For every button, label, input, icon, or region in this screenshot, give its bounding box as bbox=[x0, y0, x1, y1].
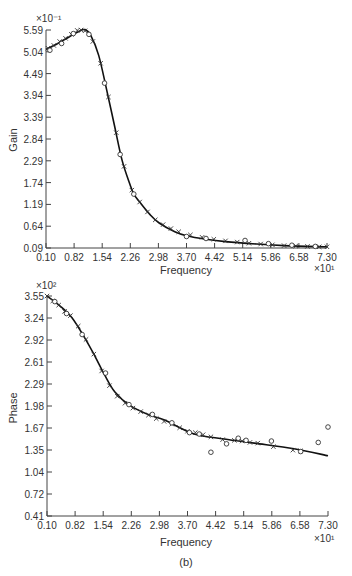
y-tick-label: 2.29 bbox=[25, 379, 45, 390]
circle-marker bbox=[187, 430, 192, 435]
figure-caption: (b) bbox=[179, 556, 192, 568]
y-tick-label: 1.98 bbox=[25, 401, 45, 412]
x-tick-label: 6.58 bbox=[289, 252, 309, 263]
circle-marker bbox=[316, 440, 321, 445]
x-tick-label: 7.30 bbox=[318, 520, 338, 531]
y-tick-label: 5.04 bbox=[24, 47, 44, 58]
circle-marker bbox=[290, 243, 295, 248]
x-tick-label: 2.98 bbox=[149, 252, 169, 263]
circle-marker bbox=[132, 192, 137, 197]
x-tick-label: 5.86 bbox=[262, 520, 282, 531]
circle-marker bbox=[71, 31, 76, 36]
y-tick-label: 4.49 bbox=[24, 69, 44, 80]
x-tick-label: 2.26 bbox=[122, 520, 142, 531]
y-tick-label: 5.59 bbox=[24, 25, 44, 36]
circle-marker bbox=[266, 241, 271, 246]
y-tick-label: 1.74 bbox=[24, 178, 44, 189]
y-tick-label: 1.67 bbox=[25, 423, 45, 434]
circle-marker bbox=[204, 236, 209, 241]
cross-marker bbox=[137, 200, 141, 204]
figure: ×10⁻¹ Gain Frequency ×10¹ 0.100.821.542.… bbox=[0, 0, 352, 576]
phase-y-multiplier: ×10² bbox=[36, 280, 57, 291]
circle-marker bbox=[64, 311, 69, 316]
y-tick-label: 0.41 bbox=[25, 511, 45, 522]
circle-marker bbox=[298, 449, 303, 454]
y-tick-label: 3.39 bbox=[24, 112, 44, 123]
x-tick-label: 5.86 bbox=[261, 252, 281, 263]
circle-marker bbox=[48, 48, 53, 53]
circle-marker bbox=[184, 234, 189, 239]
y-tick-label: 0.72 bbox=[25, 489, 45, 500]
y-tick-label: 2.61 bbox=[25, 357, 45, 368]
phase-axes: 0.100.821.542.262.983.704.425.145.866.58… bbox=[25, 291, 339, 531]
gain-axes: 0.100.821.542.262.983.704.425.145.866.58… bbox=[24, 25, 338, 263]
circle-marker bbox=[269, 439, 274, 444]
y-tick-label: 2.29 bbox=[24, 156, 44, 167]
circle-marker bbox=[53, 299, 58, 304]
x-tick-label: 3.70 bbox=[178, 520, 198, 531]
x-tick-label: 4.42 bbox=[206, 520, 226, 531]
circle-marker bbox=[243, 238, 248, 243]
y-tick-label: 0.09 bbox=[24, 243, 44, 254]
y-tick-label: 3.24 bbox=[25, 313, 45, 324]
phase-y-axis-label: Phase bbox=[7, 392, 19, 423]
x-tick-label: 1.54 bbox=[92, 252, 112, 263]
cross-marker bbox=[153, 218, 157, 222]
circle-marker bbox=[59, 41, 64, 46]
gain-x-axis-label: Frequency bbox=[160, 264, 212, 276]
cross-marker bbox=[145, 210, 149, 214]
gain-x-multiplier: ×10¹ bbox=[314, 263, 335, 274]
y-tick-label: 2.84 bbox=[24, 134, 44, 145]
phase-chart: ×10² Phase Frequency ×10¹ 0.100.821.542.… bbox=[7, 280, 338, 548]
circle-marker bbox=[236, 436, 241, 441]
x-tick-label: 0.82 bbox=[65, 520, 85, 531]
x-tick-label: 4.42 bbox=[205, 252, 225, 263]
x-tick-label: 0.82 bbox=[64, 252, 84, 263]
circle-marker bbox=[244, 438, 249, 443]
circle-marker bbox=[313, 244, 318, 249]
x-tick-label: 5.14 bbox=[233, 252, 253, 263]
x-tick-label: 5.14 bbox=[234, 520, 254, 531]
fitted-curve bbox=[46, 29, 327, 246]
x-tick-label: 6.58 bbox=[290, 520, 310, 531]
circle-marker bbox=[87, 32, 92, 37]
x-tick-label: 2.26 bbox=[121, 252, 141, 263]
x-tick-label: 2.98 bbox=[150, 520, 170, 531]
circle-marker bbox=[170, 421, 175, 426]
phase-x-axis-label: Frequency bbox=[160, 536, 212, 548]
circle-marker bbox=[197, 432, 202, 437]
phase-x-multiplier: ×10¹ bbox=[314, 533, 335, 544]
circle-marker bbox=[80, 332, 85, 337]
y-tick-label: 1.35 bbox=[25, 445, 45, 456]
y-tick-label: 1.19 bbox=[24, 199, 44, 210]
gain-plot-area bbox=[46, 28, 329, 249]
x-tick-label: 3.70 bbox=[177, 252, 197, 263]
y-tick-label: 3.55 bbox=[25, 291, 45, 302]
y-tick-label: 3.94 bbox=[24, 90, 44, 101]
circle-marker bbox=[103, 371, 108, 376]
gain-y-multiplier: ×10⁻¹ bbox=[36, 13, 62, 24]
circle-marker bbox=[118, 152, 123, 157]
circle-marker bbox=[102, 81, 107, 86]
y-tick-label: 1.04 bbox=[25, 467, 45, 478]
circle-marker bbox=[224, 442, 229, 447]
gain-chart: ×10⁻¹ Gain Frequency ×10¹ 0.100.821.542.… bbox=[7, 13, 337, 276]
phase-plot-area bbox=[45, 294, 331, 456]
circle-marker bbox=[150, 412, 155, 417]
circle-marker bbox=[326, 425, 331, 430]
circle-marker bbox=[127, 402, 132, 407]
x-tick-label: 7.30 bbox=[317, 252, 337, 263]
y-tick-label: 2.92 bbox=[25, 335, 45, 346]
gain-y-axis-label: Gain bbox=[7, 128, 19, 151]
y-tick-label: 0.64 bbox=[24, 221, 44, 232]
circle-marker bbox=[209, 450, 214, 455]
x-tick-label: 1.54 bbox=[93, 520, 113, 531]
